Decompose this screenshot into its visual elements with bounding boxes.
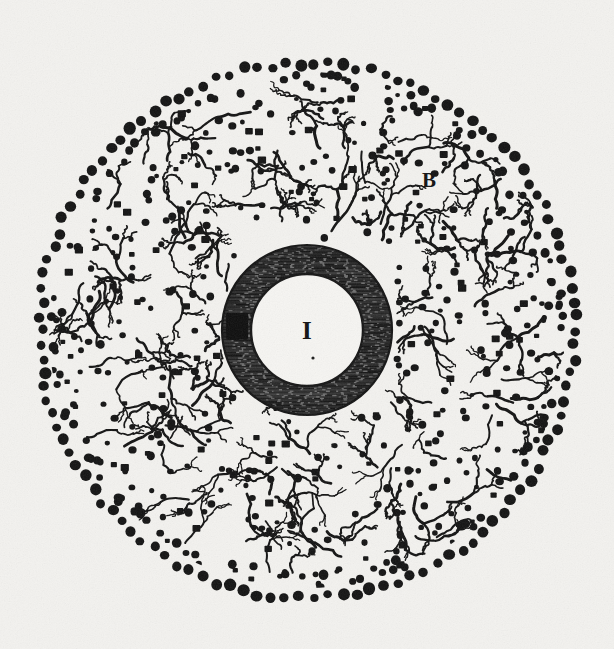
engraving-figure: IB Circular microscopic section with cen… <box>0 0 614 649</box>
paper-grain-texture <box>0 0 614 649</box>
illustration-canvas: IB <box>0 0 614 649</box>
